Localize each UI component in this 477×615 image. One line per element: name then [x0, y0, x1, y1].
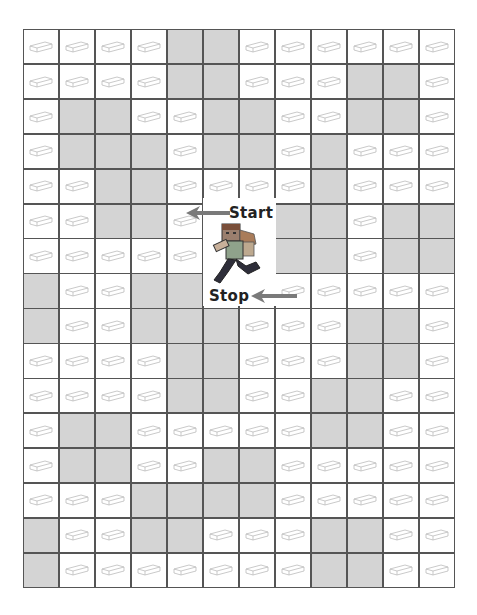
- maze-wall-cell: [384, 65, 418, 98]
- brick-icon: [28, 389, 54, 403]
- maze-wall-cell: [384, 309, 418, 342]
- maze-path-cell: [312, 65, 346, 98]
- maze-path-cell: [132, 414, 166, 447]
- brick-icon: [352, 214, 378, 228]
- maze-path-cell: [60, 30, 94, 63]
- maze-wall-cell: [132, 484, 166, 517]
- brick-icon: [28, 214, 54, 228]
- maze-wall-cell: [348, 554, 382, 587]
- maze-path-cell: [420, 135, 454, 168]
- brick-icon: [64, 528, 90, 542]
- brick-icon: [244, 179, 270, 193]
- maze-wall-cell: [420, 205, 454, 238]
- maze-wall-cell: [312, 554, 346, 587]
- brick-icon: [64, 354, 90, 368]
- brick-icon: [352, 284, 378, 298]
- brick-icon: [424, 284, 450, 298]
- maze-path-cell: [132, 30, 166, 63]
- maze-wall-cell: [132, 519, 166, 552]
- brick-icon: [28, 179, 54, 193]
- maze-wall-cell: [312, 519, 346, 552]
- maze-path-cell: [132, 379, 166, 412]
- brick-icon: [424, 110, 450, 124]
- maze-path-cell: [96, 519, 130, 552]
- brick-icon: [28, 110, 54, 124]
- brick-icon: [244, 563, 270, 577]
- maze-wall-cell: [348, 379, 382, 412]
- brick-icon: [64, 319, 90, 333]
- maze-wall-cell: [168, 519, 202, 552]
- brick-icon: [388, 459, 414, 473]
- maze-wall-cell: [312, 414, 346, 447]
- maze-path-cell: [276, 135, 310, 168]
- brick-icon: [352, 459, 378, 473]
- brick-icon: [424, 424, 450, 438]
- maze-wall-cell: [132, 135, 166, 168]
- brick-icon: [100, 563, 126, 577]
- brick-icon: [280, 319, 306, 333]
- start-arrow-icon: [186, 206, 230, 220]
- maze-wall-cell: [276, 239, 310, 272]
- brick-icon: [280, 75, 306, 89]
- maze-path-cell: [132, 239, 166, 272]
- brick-icon: [388, 528, 414, 542]
- maze-path-cell: [60, 309, 94, 342]
- brick-icon: [280, 179, 306, 193]
- maze-path-cell: [384, 449, 418, 482]
- maze-path-cell: [132, 449, 166, 482]
- maze-wall-cell: [384, 205, 418, 238]
- maze-path-cell: [312, 30, 346, 63]
- maze-path-cell: [168, 239, 202, 272]
- maze-path-cell: [348, 274, 382, 307]
- brick-icon: [388, 179, 414, 193]
- maze-wall-cell: [348, 414, 382, 447]
- brick-icon: [64, 75, 90, 89]
- maze-path-cell: [132, 100, 166, 133]
- maze-path-cell: [312, 449, 346, 482]
- maze-path-cell: [24, 205, 58, 238]
- brick-icon: [208, 563, 234, 577]
- maze-path-cell: [240, 414, 274, 447]
- maze-path-cell: [60, 344, 94, 377]
- maze-wall-cell: [96, 135, 130, 168]
- maze-path-cell: [24, 379, 58, 412]
- brick-icon: [316, 354, 342, 368]
- brick-icon: [172, 459, 198, 473]
- maze-path-cell: [240, 519, 274, 552]
- brick-icon: [388, 424, 414, 438]
- brick-icon: [28, 424, 54, 438]
- brick-icon: [280, 528, 306, 542]
- brick-icon: [100, 354, 126, 368]
- maze-path-cell: [24, 344, 58, 377]
- brick-icon: [172, 249, 198, 263]
- brick-icon: [388, 40, 414, 54]
- maze-wall-cell: [204, 135, 238, 168]
- maze-wall-cell: [168, 65, 202, 98]
- brick-icon: [316, 75, 342, 89]
- maze-wall-cell: [60, 100, 94, 133]
- brick-icon: [280, 424, 306, 438]
- maze-path-cell: [204, 554, 238, 587]
- maze-wall-cell: [24, 519, 58, 552]
- maze-path-cell: [312, 309, 346, 342]
- maze-path-cell: [240, 554, 274, 587]
- brick-icon: [100, 493, 126, 507]
- maze-path-cell: [276, 344, 310, 377]
- maze-path-cell: [384, 484, 418, 517]
- maze-path-cell: [276, 170, 310, 203]
- maze-wall-cell: [96, 205, 130, 238]
- maze-path-cell: [60, 170, 94, 203]
- maze-path-cell: [24, 484, 58, 517]
- maze-path-cell: [240, 344, 274, 377]
- brick-icon: [424, 40, 450, 54]
- brick-icon: [136, 459, 162, 473]
- brick-icon: [388, 563, 414, 577]
- brick-icon: [64, 493, 90, 507]
- brick-icon: [280, 493, 306, 507]
- maze-wall-cell: [312, 239, 346, 272]
- maze-path-cell: [204, 414, 238, 447]
- maze-path-cell: [168, 449, 202, 482]
- maze-path-cell: [24, 239, 58, 272]
- brick-icon: [280, 144, 306, 158]
- brick-icon: [316, 319, 342, 333]
